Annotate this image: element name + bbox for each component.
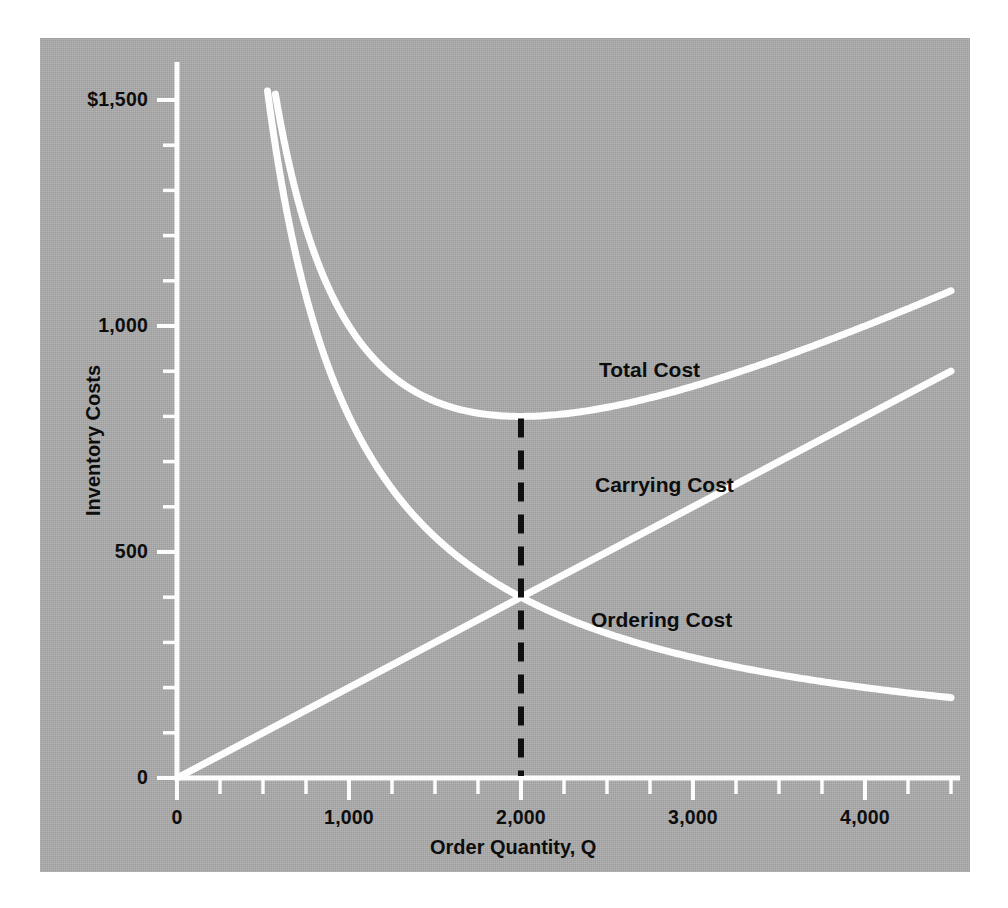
series-label-total-cost: Total Cost	[599, 358, 700, 382]
x-axis-ticks	[177, 778, 951, 800]
series-ordering-cost	[268, 91, 951, 698]
y-tick-label-0: 0	[40, 766, 148, 789]
x-tick-label-2000: 2,000	[481, 806, 561, 829]
y-tick-label-1000: 1,000	[40, 314, 148, 337]
x-tick-label-3000: 3,000	[653, 806, 733, 829]
x-tick-label-1000: 1,000	[309, 806, 389, 829]
x-tick-label-0: 0	[137, 806, 217, 829]
y-tick-label-1500: $1,500	[40, 88, 148, 111]
y-tick-label-500: 500	[40, 540, 148, 563]
chart-plot-area	[0, 0, 1008, 908]
x-tick-label-4000: 4,000	[825, 806, 905, 829]
y-axis-title: Inventory Costs	[82, 365, 105, 516]
series-label-ordering-cost: Ordering Cost	[591, 608, 732, 632]
eoq-inventory-cost-chart: $1,500 1,000 500 0 0 1,000 2,000 3,000 4…	[0, 0, 1008, 908]
series-label-carrying-cost: Carrying Cost	[595, 473, 734, 497]
y-axis-ticks	[157, 100, 177, 778]
series-carrying-cost	[177, 371, 951, 778]
x-axis-title: Order Quantity, Q	[430, 836, 596, 859]
